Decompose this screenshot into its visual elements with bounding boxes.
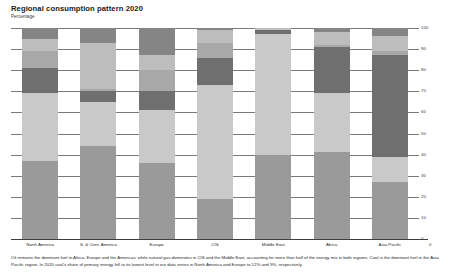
bar-segment-gas — [314, 93, 350, 152]
y-tick-label: 70 — [421, 89, 426, 93]
bar-segment-coal — [197, 58, 233, 85]
bar-africa[interactable] — [314, 28, 350, 239]
y-tick-label: 60 — [421, 110, 426, 114]
bar-segment-gas — [197, 85, 233, 199]
bar-segment-oil — [314, 152, 350, 239]
bar-segment-renewables — [80, 28, 116, 43]
y-tick-label: 100 — [421, 26, 428, 30]
y-tick-label: 20 — [421, 195, 426, 199]
bar-segment-renewables — [22, 28, 58, 39]
bar-segment-hydro — [372, 36, 408, 51]
x-tick-label: S. & Cent. America — [80, 242, 117, 247]
x-tick-label: Europe — [150, 242, 164, 247]
bar-segment-hydro — [197, 30, 233, 43]
bar-segment-coal — [139, 91, 175, 110]
bar-segment-oil — [372, 182, 408, 239]
y-tick-label: 90 — [421, 47, 426, 51]
y-tick-label: 80 — [421, 68, 426, 72]
bar-segment-gas — [255, 34, 291, 154]
bar-segment-coal — [314, 47, 350, 93]
bar-segment-gas — [80, 102, 116, 146]
x-tick-label: North America — [26, 242, 54, 247]
bar-asia-pacific[interactable] — [372, 28, 408, 239]
bar-segment-nuclear — [139, 70, 175, 91]
y-tick-label: 50 — [421, 131, 426, 135]
bar-segment-gas — [22, 93, 58, 161]
bar-segment-gas — [139, 110, 175, 163]
bar-segment-coal — [80, 91, 116, 102]
bar-segment-hydro — [314, 32, 350, 45]
plot-area — [11, 28, 419, 239]
x-tick-label: CIS — [211, 242, 218, 247]
bar-north-america[interactable] — [22, 28, 58, 239]
y-axis-zero-label: 0 — [429, 242, 431, 247]
bar-middle-east[interactable] — [255, 28, 291, 239]
bar-segment-nuclear — [197, 43, 233, 58]
bar-europe[interactable] — [139, 28, 175, 239]
chart-subtitle: Percentage — [11, 14, 35, 19]
y-tick-label: 30 — [421, 173, 426, 177]
x-tick-label: Asia Pacific — [378, 242, 401, 247]
y-tick-label: 40 — [421, 152, 426, 156]
bar-segment-nuclear — [22, 51, 58, 68]
bar-cis[interactable] — [197, 28, 233, 239]
x-axis-tick-labels: North AmericaS. & Cent. AmericaEuropeCIS… — [11, 242, 419, 252]
bar-series-group — [11, 28, 419, 239]
bar-segment-hydro — [139, 55, 175, 70]
bar-segment-oil — [255, 155, 291, 239]
chart-title: Regional consumption pattern 2020 — [11, 4, 143, 13]
x-axis-line — [11, 239, 428, 240]
bar-segment-coal — [372, 55, 408, 156]
bar-segment-oil — [197, 199, 233, 239]
bar-segment-gas — [372, 157, 408, 182]
chart-caption: Oil remains the dominant fuel in Africa,… — [11, 255, 445, 268]
bar-segment-oil — [80, 146, 116, 239]
y-tick-label: 10 — [421, 216, 426, 220]
bar-segment-renewables — [372, 28, 408, 36]
bar-segment-hydro — [22, 39, 58, 52]
bar-segment-oil — [22, 161, 58, 239]
y-axis-tick-labels: 0102030405060708090100 — [421, 28, 451, 239]
bar-s-cent-america[interactable] — [80, 28, 116, 239]
bar-segment-renewables — [139, 28, 175, 55]
bar-segment-hydro — [80, 43, 116, 89]
x-tick-label: Middle East — [262, 242, 285, 247]
bar-segment-coal — [22, 68, 58, 93]
y-tick-label: 0 — [421, 237, 423, 241]
bar-segment-oil — [139, 163, 175, 239]
x-tick-label: Africa — [326, 242, 337, 247]
chart-page: Regional consumption pattern 2020 Percen… — [0, 0, 456, 280]
